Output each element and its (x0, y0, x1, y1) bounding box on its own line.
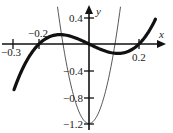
y-tick-label-m04: −0.4 (63, 65, 83, 77)
x-tick-label-m03: −0.3 (1, 46, 21, 58)
y-tick-label-m12: −1.2 (63, 118, 83, 130)
x-tick-label-m02: −0.2 (28, 27, 48, 39)
y-axis-arrow-icon (85, 5, 93, 14)
chart: −0.3 −0.2 0.2 0.4 −0.4 −0.8 −1.2 x y (0, 0, 173, 133)
x-axis-label: x (158, 28, 164, 40)
y-tick-label-p04: 0.4 (69, 12, 83, 24)
x-tick-label-p02: 0.2 (132, 51, 146, 63)
chart-svg: −0.3 −0.2 0.2 0.4 −0.4 −0.8 −1.2 x y (0, 0, 173, 133)
x-axis-arrow-icon (157, 40, 166, 48)
y-tick-label-m08: −0.8 (63, 92, 83, 104)
y-axis-label: y (95, 5, 101, 17)
